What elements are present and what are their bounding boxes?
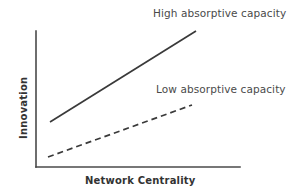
chart-background xyxy=(0,0,294,192)
x-axis-title: Network Centrality xyxy=(85,175,196,186)
y-axis-title: Innovation xyxy=(18,77,29,139)
series-label-high-absorptive-capacity: High absorptive capacity xyxy=(153,7,286,19)
series-label-low-absorptive-capacity: Low absorptive capacity xyxy=(156,83,286,95)
chart-figure: High absorptive capacity Low absorptive … xyxy=(0,0,294,192)
